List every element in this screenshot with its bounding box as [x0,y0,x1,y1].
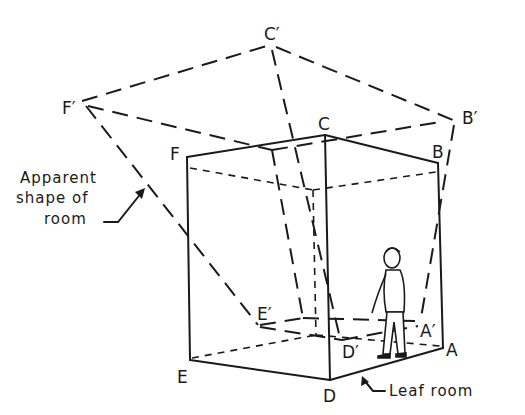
label-D-prime: D′ [342,342,359,362]
label-F: F [170,144,180,164]
edge-F-C [187,135,325,157]
edge-C-B [325,135,438,163]
label-C-prime: C′ [264,24,280,44]
label-E-prime: E′ [257,304,272,324]
label-B: B [432,142,444,162]
person-shoe-right [396,353,406,357]
edge-B-A [438,163,443,348]
hidden-F-back [190,168,313,190]
person-shoe-left [378,354,390,358]
edge-E-D [190,360,330,380]
label-D: D [323,386,336,406]
hidden-back-vertical [313,190,316,335]
label-A: A [446,340,458,360]
person-legs [383,312,405,354]
edge-Dp-Ap [342,326,418,340]
label-C: C [318,114,330,134]
label-E: E [177,367,188,387]
label-B-prime: B′ [462,108,478,128]
leaf-room-diagram: C′ F′ B′ C F B E′ A′ D′ A E D Apparent s… [0,0,525,415]
hidden-back-B [313,172,436,190]
edge-back-Bp [272,122,440,150]
leaf-room-label: Leaf room [389,382,473,400]
person-torso [384,270,405,312]
edge-Cp-Bp [276,47,453,120]
edge-Fp-Cp [82,45,270,101]
edge-Fp-Ep [86,106,258,325]
edge-back-vertical [272,150,303,318]
person-figure [372,248,406,358]
edge-Fp-back [88,106,272,150]
apparent-shape-arrow [104,192,142,222]
edge-F-E [187,157,190,360]
hidden-E-back [192,335,316,358]
apparent-shape-label-line3: room [44,210,87,228]
edge-C-D [325,135,330,380]
annotation-text: Apparent shape of room Leaf room [16,169,473,400]
label-A-prime: A′ [420,321,436,341]
apparent-shape-label-line2: shape of [16,189,89,207]
apparent-shape-label-line1: Apparent [20,169,97,187]
edge-Cp-Dp [272,50,340,338]
label-F-prime: F′ [62,98,76,118]
